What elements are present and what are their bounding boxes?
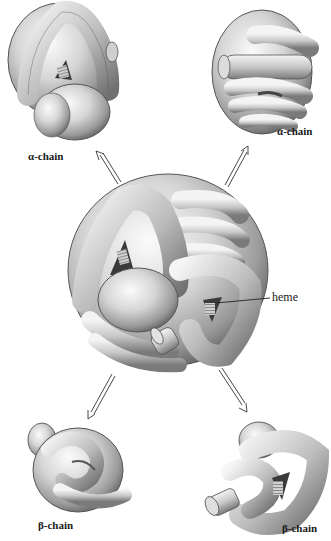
hemoglobin-diagram: α-chain α-chain heme β-chain β-chain [0,0,331,541]
diagram-canvas [0,0,331,541]
arrow-to-bottom-right [219,368,247,412]
arrow-to-top-left [96,151,121,184]
label-alpha-chain-top-left: α-chain [28,150,63,162]
label-heme: heme [272,290,298,305]
beta-chain-bottom-left-structure [28,423,125,512]
arrow-to-top-right [225,146,248,187]
label-beta-chain-bottom-left: β-chain [38,519,73,531]
label-alpha-chain-top-right: α-chain [277,125,312,137]
label-beta-chain-bottom-right: β-chain [282,522,317,534]
alpha-chain-top-right-structure [212,10,312,134]
arrow-to-bottom-left [88,374,115,419]
alpha-chain-top-left-structure [8,3,118,140]
hemoglobin-tetramer-structure [68,174,268,366]
beta-chain-bottom-right-structure [202,422,318,524]
